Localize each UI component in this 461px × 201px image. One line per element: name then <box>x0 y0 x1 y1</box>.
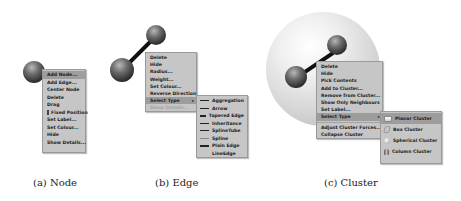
menu-item-hide[interactable]: Hide <box>317 70 382 77</box>
submenu-item-column-cluster[interactable]: Column Cluster <box>381 146 441 157</box>
menu-item-label: Add to Cluster... <box>321 86 363 91</box>
menu-item-collapse-cluster[interactable]: Collapse Cluster <box>317 131 382 138</box>
caption-cluster: (c) Cluster <box>324 177 378 188</box>
menu-item-label: Column Cluster <box>392 149 432 154</box>
spherical-cluster-icon <box>384 138 390 144</box>
menu-item-label: Show Only Neighbours <box>321 100 380 105</box>
cluster-node-b[interactable] <box>285 66 307 88</box>
menu-item-delete[interactable]: Delete <box>317 63 382 70</box>
menu-item-set-label[interactable]: Set Label... <box>317 106 382 113</box>
column-cluster-icon <box>384 149 389 155</box>
menu-item-label: Hide <box>321 71 333 76</box>
menu-item-pick-contents[interactable]: Pick Contents <box>317 77 382 84</box>
menu-item-label: Planar Cluster <box>395 116 432 121</box>
submenu-item-box-cluster[interactable]: Box Cluster <box>381 124 441 135</box>
submenu-item-spherical-cluster[interactable]: Spherical Cluster <box>381 135 441 146</box>
menu-item-label: Pick Contents <box>321 78 357 83</box>
cluster-node-a[interactable] <box>327 35 347 55</box>
menu-item-adjust-cluster-forces[interactable]: Adjust Cluster Forces... <box>317 124 382 131</box>
menu-item-add-to-cluster[interactable]: Add to Cluster... <box>317 85 382 92</box>
cluster-context-menu: Delete Hide Pick Contents Add to Cluster… <box>316 61 383 139</box>
menu-item-label: Select Type <box>321 114 351 119</box>
cluster-type-submenu: Planar Cluster Box Cluster Spherical Clu… <box>380 111 442 164</box>
menu-item-show-only-neighbours[interactable]: Show Only Neighbours <box>317 99 382 106</box>
planar-cluster-icon <box>384 116 392 122</box>
menu-item-label: Set Label... <box>321 107 350 112</box>
menu-item-label: Box Cluster <box>393 127 423 132</box>
menu-item-label: Delete <box>321 64 338 69</box>
menu-item-select-type[interactable]: Select Type▸ <box>317 113 382 120</box>
menu-item-remove-from-cluster[interactable]: Remove from Cluster... <box>317 92 382 99</box>
box-cluster-icon <box>383 126 391 133</box>
menu-separator <box>317 122 382 123</box>
panel-cluster: Delete Hide Pick Contents Add to Cluster… <box>0 0 461 201</box>
menu-item-label: Adjust Cluster Forces... <box>321 125 382 130</box>
menu-item-label: Remove from Cluster... <box>321 93 380 98</box>
menu-item-label: Collapse Cluster <box>321 132 363 137</box>
submenu-item-planar-cluster[interactable]: Planar Cluster <box>381 113 441 124</box>
menu-item-label: Spherical Cluster <box>393 138 437 143</box>
